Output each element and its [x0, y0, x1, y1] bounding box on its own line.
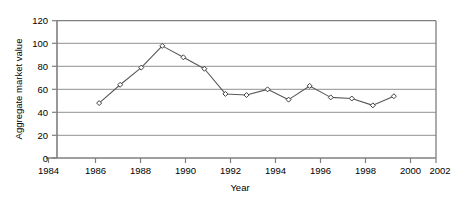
y-tick-label-20: 20 [37, 130, 48, 141]
x-tick-label-1986: 1986 [85, 165, 106, 176]
x-tick-label-1990: 1990 [175, 165, 196, 176]
y-tick-label-60: 60 [37, 84, 48, 95]
chart-figure: 120 100 80 60 40 20 0 1984 1986 1988 1 [0, 0, 460, 199]
y-tick-label-100: 100 [32, 38, 48, 49]
line-chart: 120 100 80 60 40 20 0 1984 1986 1988 1 [0, 0, 460, 199]
y-tick-label-80: 80 [37, 61, 48, 72]
x-tick-label-1988: 1988 [130, 165, 151, 176]
x-tick-label-1994: 1994 [265, 165, 286, 176]
x-tick-label-1996: 1996 [310, 165, 331, 176]
x-tick-label-1998: 1998 [355, 165, 376, 176]
y-tick-label-120: 120 [32, 15, 48, 26]
y-axis-title-text: Aggregate market value [13, 39, 24, 140]
x-tick-label-1992: 1992 [220, 165, 241, 176]
x-tick-label-2002: 2002 [429, 165, 450, 176]
y-tick-label-0: 0 [43, 153, 48, 164]
x-axis-title: Year [230, 182, 249, 193]
y-tick-label-40: 40 [37, 107, 48, 118]
x-tick-label-1984: 1984 [38, 165, 59, 176]
x-tick-label-2000: 2000 [400, 165, 421, 176]
